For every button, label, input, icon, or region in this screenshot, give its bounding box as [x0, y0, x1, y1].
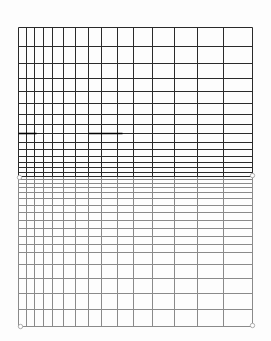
- grid-canvas: [0, 0, 271, 341]
- lower-horizontal-lines: [19, 180, 253, 327]
- upper-vertical-lines: [19, 28, 253, 178]
- bottom-left-marker-icon: [18, 324, 22, 328]
- left-mid-marker-icon: [17, 175, 21, 179]
- upper-horizontal-lines: [19, 28, 253, 177]
- grid-diagram: [0, 0, 271, 341]
- bottom-right-marker-icon: [250, 323, 254, 327]
- right-mid-marker-icon: [250, 173, 254, 177]
